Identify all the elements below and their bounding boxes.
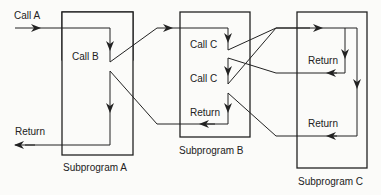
subprogram-a-box xyxy=(62,12,133,155)
return-b-label: Return xyxy=(190,108,220,118)
call-a-label: Call A xyxy=(14,11,40,21)
call-b-label: Call B xyxy=(72,52,99,62)
diagram-lines xyxy=(0,0,381,195)
subprogram-c-label: Subprogram C xyxy=(298,177,363,187)
subprogram-a-label: Subprogram A xyxy=(63,163,127,173)
return-c-1-label: Return xyxy=(308,56,338,66)
return-a-label: Return xyxy=(15,127,45,137)
subprogram-b-label: Subprogram B xyxy=(179,146,243,156)
call-c-1-label: Call C xyxy=(190,40,217,50)
return-c-2-label: Return xyxy=(308,119,338,129)
call-c-2-label: Call C xyxy=(190,74,217,84)
